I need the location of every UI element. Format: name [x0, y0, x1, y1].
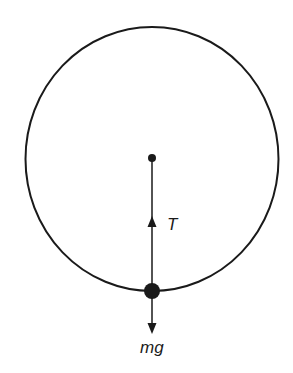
- weight-label: mg: [140, 338, 164, 357]
- tension-arrowhead-icon: [148, 216, 157, 227]
- center-pivot-dot: [148, 154, 156, 162]
- tension-label: T: [167, 215, 179, 234]
- weight-arrowhead-icon: [148, 323, 157, 334]
- circular-motion-diagram: T mg: [0, 0, 293, 373]
- mass-dot: [144, 283, 160, 299]
